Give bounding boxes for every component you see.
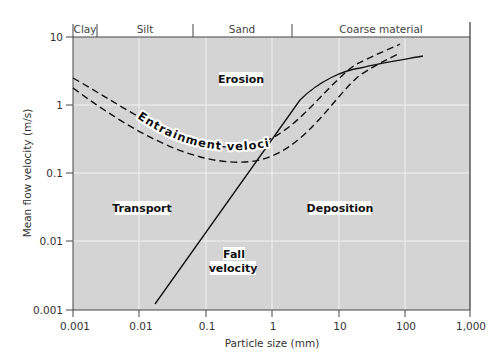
svg-text:Fall: Fall xyxy=(223,248,245,261)
y-tick-1: 1 xyxy=(56,99,63,111)
svg-text:Deposition: Deposition xyxy=(307,202,374,215)
size-class-silt: Silt xyxy=(137,23,154,35)
x-tick-0.01: 0.01 xyxy=(129,320,152,332)
size-class-sand: Sand xyxy=(229,23,255,35)
x-tick-1: 1 xyxy=(270,320,277,332)
x-tick-100: 100 xyxy=(396,320,416,332)
x-tick-0.001: 0.001 xyxy=(60,320,90,332)
y-axis-title: Mean flow velocity (m/s) xyxy=(21,109,33,238)
x-tick-10: 10 xyxy=(333,320,346,332)
svg-text:Transport: Transport xyxy=(112,202,172,215)
y-tick-0.01: 0.01 xyxy=(40,235,63,247)
svg-text:Erosion: Erosion xyxy=(218,73,264,86)
region-erosion: Erosion xyxy=(218,72,264,86)
size-class-clay: Clay xyxy=(74,23,97,35)
y-tick-0.1: 0.1 xyxy=(46,167,63,179)
x-tick-0.1: 0.1 xyxy=(199,320,216,332)
region-transport: Transport xyxy=(112,201,172,215)
x-axis-title: Particle size (mm) xyxy=(225,337,319,349)
hjulstrom-chart: Clay Silt Sand Coarse material 10 1 0.1 … xyxy=(0,0,504,363)
y-tick-0.001: 0.001 xyxy=(33,304,63,316)
y-tick-10: 10 xyxy=(50,31,63,43)
x-tick-1000: 1,000 xyxy=(456,320,486,332)
svg-text:velocity: velocity xyxy=(209,262,258,275)
size-class-coarse: Coarse material xyxy=(339,23,423,35)
region-deposition: Deposition xyxy=(307,201,374,215)
